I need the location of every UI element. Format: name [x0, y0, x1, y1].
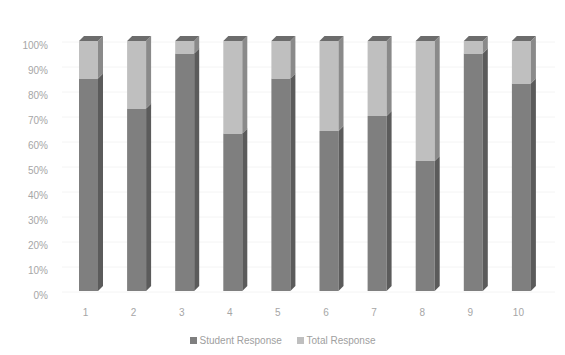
bar-segment-total-response: [464, 36, 488, 54]
y-tick-label: 80%: [28, 90, 48, 101]
x-tick-label: 1: [83, 307, 89, 318]
y-tick-label: 60%: [28, 140, 48, 151]
bar-segment-total-response: [271, 36, 295, 79]
y-tick-label: 90%: [28, 65, 48, 76]
y-tick-label: 0%: [34, 290, 49, 301]
y-tick-label: 20%: [28, 240, 48, 251]
x-tick-label: 6: [323, 307, 329, 318]
bar-segment-student-response: [320, 126, 344, 291]
x-tick-label: 9: [468, 307, 474, 318]
bar-segment-student-response: [416, 156, 440, 291]
stacked-column-chart: 0%10%20%30%40%50%60%70%80%90%100% 123456…: [0, 0, 565, 355]
bar-segment-student-response: [271, 74, 295, 292]
x-tick-label: 5: [275, 307, 281, 318]
x-axis: 12345678910: [83, 307, 525, 318]
bars: [79, 36, 536, 291]
bar-segment-total-response: [79, 36, 103, 79]
bar-segment-student-response: [512, 79, 536, 292]
bar-segment-total-response: [416, 36, 440, 161]
legend-swatch-student: [190, 337, 197, 344]
bar-segment-student-response: [175, 49, 199, 292]
y-tick-label: 70%: [28, 115, 48, 126]
bar-segment-total-response: [223, 36, 247, 134]
bar-segment-total-response: [175, 36, 199, 54]
y-tick-label: 50%: [28, 165, 48, 176]
y-tick-label: 30%: [28, 215, 48, 226]
bar-segment-student-response: [464, 49, 488, 292]
bar-segment-student-response: [79, 74, 103, 292]
x-tick-label: 2: [131, 307, 137, 318]
legend-swatch-total: [297, 337, 304, 344]
y-tick-label: 10%: [28, 265, 48, 276]
legend-item-student-response: Student Response: [190, 335, 282, 346]
bar-segment-student-response: [223, 129, 247, 292]
bar-segment-total-response: [127, 36, 151, 109]
legend: Student Response Total Response: [0, 335, 565, 346]
legend-label-student: Student Response: [200, 335, 282, 346]
legend-item-total-response: Total Response: [297, 335, 376, 346]
x-tick-label: 10: [513, 307, 525, 318]
x-tick-label: 3: [179, 307, 185, 318]
bar-segment-student-response: [368, 111, 392, 291]
bar-segment-student-response: [127, 104, 151, 292]
x-tick-label: 4: [227, 307, 233, 318]
bar-segment-total-response: [368, 36, 392, 116]
legend-label-total: Total Response: [307, 335, 376, 346]
y-tick-label: 40%: [28, 190, 48, 201]
x-tick-label: 7: [371, 307, 377, 318]
y-tick-label: 100%: [22, 40, 48, 51]
y-axis: 0%10%20%30%40%50%60%70%80%90%100%: [22, 40, 48, 301]
bar-segment-total-response: [320, 36, 344, 131]
bar-segment-total-response: [512, 36, 536, 84]
x-tick-label: 8: [419, 307, 425, 318]
